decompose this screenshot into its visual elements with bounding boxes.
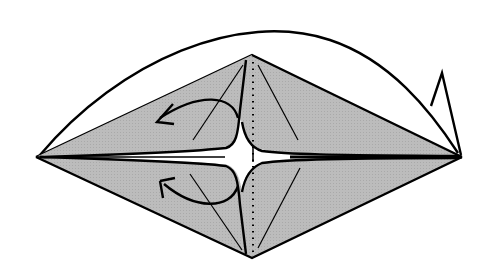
origami-diagram	[0, 0, 486, 274]
small-triangle-flap	[431, 73, 461, 155]
